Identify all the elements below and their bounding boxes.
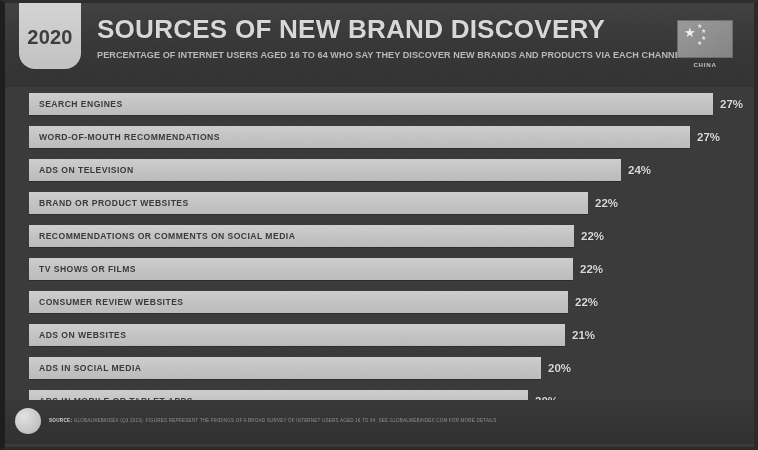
bar-label: RECOMMENDATIONS OR COMMENTS ON SOCIAL ME… <box>29 231 295 241</box>
bar: ADS ON WEBSITES21% <box>29 324 565 346</box>
bar: WORD-OF-MOUTH RECOMMENDATIONS27% <box>29 126 690 148</box>
bar-row: CONSUMER REVIEW WEBSITES22% <box>5 291 754 313</box>
footer-band: SOURCE: GLOBALWEBINDEX (Q3 2019). FIGURE… <box>5 400 754 444</box>
bar-row: RECOMMENDATIONS OR COMMENTS ON SOCIAL ME… <box>5 225 754 247</box>
bar-label: SEARCH ENGINES <box>29 99 123 109</box>
bar-value-label: 27% <box>697 131 720 143</box>
bar-label: ADS ON WEBSITES <box>29 330 126 340</box>
flag-small-star-icon: ★ <box>701 29 706 35</box>
bar: CONSUMER REVIEW WEBSITES22% <box>29 291 568 313</box>
infographic-canvas: 2020 SOURCES OF NEW BRAND DISCOVERY PERC… <box>0 0 758 450</box>
bar-row: ADS ON WEBSITES21% <box>5 324 754 346</box>
bar: ADS ON TELEVISION24% <box>29 159 621 181</box>
bar: TV SHOWS OR FILMS22% <box>29 258 573 280</box>
source-keyword: SOURCE: <box>49 418 72 423</box>
flag-small-star-icon: ★ <box>697 41 702 47</box>
bar-value-label: 22% <box>580 263 603 275</box>
bar-value-label: 22% <box>581 230 604 242</box>
country-flag-block: ★ ★ ★ ★ ★ CHINA <box>670 20 740 68</box>
year-badge: 2020 <box>19 0 81 69</box>
bar-label: BRAND OR PRODUCT WEBSITES <box>29 198 189 208</box>
bar-row: BRAND OR PRODUCT WEBSITES22% <box>5 192 754 214</box>
bar-value-label: 24% <box>628 164 651 176</box>
china-flag-icon: ★ ★ ★ ★ ★ <box>677 20 733 58</box>
bar: BRAND OR PRODUCT WEBSITES22% <box>29 192 588 214</box>
bar-row: WORD-OF-MOUTH RECOMMENDATIONS27% <box>5 126 754 148</box>
bar-label: ADS ON TELEVISION <box>29 165 134 175</box>
bar-value-label: 22% <box>595 197 618 209</box>
bar: ADS IN SOCIAL MEDIA20% <box>29 357 541 379</box>
country-label: CHINA <box>670 61 740 68</box>
bar-row: ADS ON TELEVISION24% <box>5 159 754 181</box>
source-detail: GLOBALWEBINDEX (Q3 2019). FIGURES REPRES… <box>74 418 498 423</box>
bar: SEARCH ENGINES27% <box>29 93 713 115</box>
flag-big-star-icon: ★ <box>684 26 696 39</box>
header-band: 2020 SOURCES OF NEW BRAND DISCOVERY PERC… <box>5 3 754 87</box>
datareportal-logo-icon <box>15 408 41 434</box>
bar-label: ADS IN SOCIAL MEDIA <box>29 363 141 373</box>
header-title-group: SOURCES OF NEW BRAND DISCOVERY PERCENTAG… <box>97 16 644 60</box>
bar-value-label: 27% <box>720 98 743 110</box>
bar-value-label: 21% <box>572 329 595 341</box>
bar-value-label: 20% <box>548 362 571 374</box>
source-note: SOURCE: GLOBALWEBINDEX (Q3 2019). FIGURE… <box>49 417 746 425</box>
page-title: SOURCES OF NEW BRAND DISCOVERY <box>97 16 636 44</box>
page-subtitle: PERCENTAGE OF INTERNET USERS AGED 16 TO … <box>97 50 639 60</box>
bar-row: ADS IN SOCIAL MEDIA20% <box>5 357 754 379</box>
bar-row: TV SHOWS OR FILMS22% <box>5 258 754 280</box>
bar-label: WORD-OF-MOUTH RECOMMENDATIONS <box>29 132 220 142</box>
bar-row: SEARCH ENGINES27% <box>5 93 754 115</box>
bar-value-label: 22% <box>575 296 598 308</box>
bar-label: CONSUMER REVIEW WEBSITES <box>29 297 184 307</box>
year-label: 2020 <box>27 26 72 49</box>
bar-chart: SEARCH ENGINES27%WORD-OF-MOUTH RECOMMEND… <box>5 87 754 400</box>
bar-label: TV SHOWS OR FILMS <box>29 264 136 274</box>
bar: RECOMMENDATIONS OR COMMENTS ON SOCIAL ME… <box>29 225 574 247</box>
